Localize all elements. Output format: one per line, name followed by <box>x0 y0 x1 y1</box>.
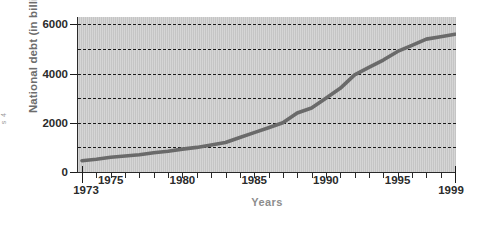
x-tick-label-1995: 1995 <box>368 174 428 186</box>
x-axis-title: Years <box>78 196 456 208</box>
x-tick-label-1980: 1980 <box>152 174 212 186</box>
x-tick-label-1990: 1990 <box>296 174 356 186</box>
x-axis-tick-labels: 1973197519801985199019951999 <box>0 0 482 226</box>
x-tick-label-1985: 1985 <box>224 174 284 186</box>
national-debt-line-chart: National debt (in billions) 020004000600… <box>0 0 482 226</box>
x-tick-label-1999: 1999 <box>421 184 481 196</box>
x-tick-label-1975: 1975 <box>81 174 141 186</box>
